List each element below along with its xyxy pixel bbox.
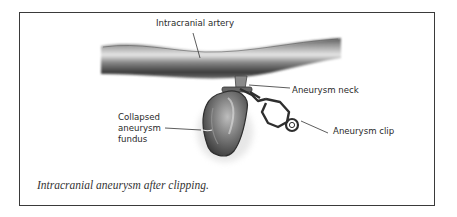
aneurysm-neck-shape: [222, 76, 252, 92]
label-fundus-line-1: Collapsed: [118, 112, 160, 123]
figure-caption: Intracranial aneurysm after clipping.: [37, 179, 209, 191]
label-fundus-line-3: fundus: [118, 134, 147, 145]
artery-shape: [101, 38, 341, 78]
label-intracranial-artery: Intracranial artery: [156, 18, 234, 29]
label-aneurysm-clip: Aneurysm clip: [333, 126, 394, 137]
label-aneurysm-neck: Aneurysm neck: [292, 85, 359, 96]
label-fundus-line-2: aneurysm: [118, 123, 161, 134]
